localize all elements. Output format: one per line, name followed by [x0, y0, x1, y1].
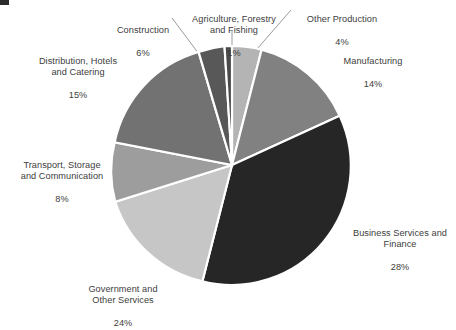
- pie-label-agriculture-value: 1%: [178, 48, 290, 60]
- pie-label-manufacturing: Manufacturing 14%: [320, 44, 426, 102]
- pie-label-government-and-other-services: Government and Other Services 24%: [60, 272, 186, 330]
- pie-label-government-name: Government and Other Services: [60, 284, 186, 307]
- pie-label-distribution-name: Distribution, Hotels and Catering: [14, 56, 142, 79]
- pie-label-distribution-hotels-and-catering: Distribution, Hotels and Catering 15%: [14, 44, 142, 114]
- pie-label-agriculture-forestry-and-fishing: Agriculture, Forestry and Fishing 1%: [178, 2, 290, 72]
- pie-label-other-production-name: Other Production: [292, 14, 392, 26]
- pie-label-agriculture-name: Agriculture, Forestry and Fishing: [178, 14, 290, 37]
- pie-label-business-name: Business Services and Finance: [344, 228, 456, 251]
- pie-label-manufacturing-value: 14%: [320, 79, 426, 91]
- pie-label-government-value: 24%: [60, 318, 186, 330]
- pie-label-business-value: 28%: [344, 262, 456, 274]
- pie-label-construction-name: Construction: [104, 25, 182, 37]
- pie-slices: [111, 46, 351, 285]
- pie-label-transport-value: 8%: [0, 194, 124, 206]
- pie-label-transport-name: Transport, Storage and Communication: [0, 160, 124, 183]
- pie-label-manufacturing-name: Manufacturing: [320, 56, 426, 68]
- pie-label-business-services-and-finance: Business Services and Finance 28%: [344, 216, 456, 286]
- pie-label-transport-storage-and-communication: Transport, Storage and Communication 8%: [0, 148, 124, 218]
- pie-label-distribution-value: 15%: [14, 90, 142, 102]
